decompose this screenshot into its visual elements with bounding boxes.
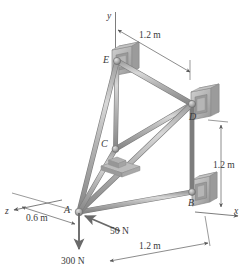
joint-label-c: C <box>101 138 108 149</box>
force-label-50n: 50 N <box>110 226 129 236</box>
dim-bottom-ext <box>205 216 210 246</box>
dim-right-label: 1.2 m <box>213 160 235 170</box>
x-axis-line <box>195 212 238 216</box>
y-axis-label: y <box>106 11 112 21</box>
truss-members <box>79 61 192 212</box>
dim-left-label: 0.6 m <box>26 213 48 223</box>
joint-label-e: E <box>102 54 109 65</box>
force-label-300n: 300 N <box>61 256 85 266</box>
dim-bottom-label: 1.2 m <box>139 241 161 251</box>
member-a-e <box>79 61 117 212</box>
dim-left-ext <box>12 193 72 210</box>
figure-canvas: y x z <box>0 0 248 273</box>
joint-label-b: B <box>188 197 194 208</box>
x-axis-label: x <box>233 206 239 216</box>
joint-c <box>112 146 119 153</box>
joint-label-d: D <box>188 111 197 122</box>
joint-e <box>113 57 120 64</box>
z-axis-label: z <box>4 206 9 216</box>
applied-forces: 300 N 50 N <box>61 213 129 266</box>
joint-d <box>188 100 195 107</box>
truss-figure: y x z <box>0 0 248 273</box>
dim-top-label: 1.2 m <box>139 30 161 40</box>
member-e-d <box>117 61 192 104</box>
dim-right-ext-top <box>208 120 228 122</box>
joint-b <box>189 189 196 196</box>
support-bracket-b <box>192 172 217 206</box>
